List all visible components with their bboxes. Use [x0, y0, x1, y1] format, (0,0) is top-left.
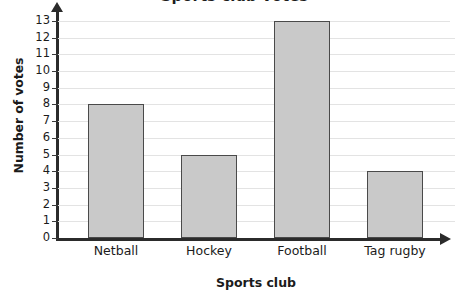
y-axis-title: Number of votes [11, 46, 26, 186]
bar-chart-figure: Sports club votes Number of votes Sports… [0, 0, 469, 298]
y-axis-tick-label: 5 [26, 149, 50, 161]
y-axis-tick-label: 3 [26, 182, 50, 194]
y-axis-tick [52, 138, 58, 139]
y-axis-tick [52, 71, 58, 72]
y-axis-tick [52, 171, 58, 172]
y-axis-tick [52, 155, 58, 156]
chart-title: Sports club votes [0, 0, 469, 5]
y-axis-tick-label: 13 [26, 15, 50, 27]
plot-area [57, 14, 455, 239]
y-axis-tick-label: 2 [26, 199, 50, 211]
gridline [57, 71, 455, 72]
gridline [57, 54, 455, 55]
y-axis-tick [52, 54, 58, 55]
bar [274, 21, 330, 238]
y-axis-tick [52, 104, 58, 105]
y-axis-tick-label: 4 [26, 165, 50, 177]
y-axis-tick-label: 9 [26, 82, 50, 94]
bar [367, 171, 423, 238]
gridline [57, 88, 455, 89]
y-axis-tick-label: 12 [26, 32, 50, 44]
chart-title-clipped: Sports club votes [0, 0, 469, 7]
x-axis-title: Sports club [57, 275, 455, 290]
x-axis-category-label: Tag rugby [335, 243, 455, 258]
y-axis-tick-label: 11 [26, 48, 50, 60]
y-axis-tick [52, 121, 58, 122]
y-axis-tick [52, 238, 58, 239]
y-axis-tick [52, 21, 58, 22]
y-axis-arrow-icon [51, 2, 63, 12]
y-axis-tick-label: 0 [26, 232, 50, 244]
y-axis-tick [52, 88, 58, 89]
y-axis-tick-label: 1 [26, 215, 50, 227]
y-axis-tick-label: 10 [26, 65, 50, 77]
bar [88, 104, 144, 238]
y-axis-tick-label: 8 [26, 98, 50, 110]
gridline [57, 21, 450, 22]
y-axis-tick-label: 7 [26, 115, 50, 127]
bar [181, 155, 237, 238]
gridline [57, 38, 455, 39]
y-axis-tick-label: 6 [26, 132, 50, 144]
y-axis-tick [52, 188, 58, 189]
y-axis-tick [52, 221, 58, 222]
y-axis-tick [52, 205, 58, 206]
y-axis-tick [52, 38, 58, 39]
